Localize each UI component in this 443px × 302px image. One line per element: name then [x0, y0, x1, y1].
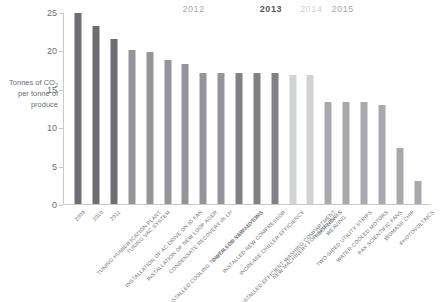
- plot-area: 0510152025: [63, 13, 431, 205]
- x-axis-label: 2011: [109, 209, 122, 222]
- bar: [182, 64, 189, 204]
- bar: [75, 13, 82, 204]
- x-axis-label: 2009: [73, 209, 87, 223]
- bar: [93, 26, 100, 204]
- y-tick-mark: [59, 167, 63, 168]
- bar: [396, 148, 403, 204]
- bar: [271, 73, 278, 204]
- x-axis-label: 2010: [91, 209, 105, 223]
- bar: [110, 39, 117, 204]
- y-tick-label: 20: [47, 46, 57, 56]
- bar: [414, 181, 421, 204]
- bar: [378, 105, 385, 204]
- y-tick-label: 15: [47, 85, 57, 95]
- y-tick-label: 5: [52, 162, 57, 172]
- x-axis-category-labels: 200920102011TUNING HUMIDIFICATION PLANTT…: [63, 207, 443, 302]
- y-tick-label: 25: [47, 8, 57, 18]
- bar: [307, 75, 314, 204]
- bar: [343, 102, 350, 204]
- bar: [128, 50, 135, 204]
- y-tick-label: 0: [52, 200, 57, 210]
- bar: [218, 73, 225, 204]
- x-axis-line: [63, 204, 431, 205]
- bar-chart: 2012201320142015 Tonnes of CO2 per tonne…: [0, 0, 443, 302]
- bar: [200, 73, 207, 204]
- bar-series: [63, 13, 431, 204]
- y-tick-mark: [59, 90, 63, 91]
- bar: [253, 73, 260, 204]
- x-axis-label: TUNING HUMIDIFICATION PLANT: [95, 209, 163, 277]
- y-tick-mark: [59, 128, 63, 129]
- y-tick-mark: [59, 51, 63, 52]
- y-tick-mark: [59, 205, 63, 206]
- bar: [289, 75, 296, 204]
- bar: [325, 102, 332, 204]
- y-tick-mark: [59, 13, 63, 14]
- bar: [361, 102, 368, 204]
- y-axis-title-line3: produce: [31, 100, 58, 109]
- bar: [235, 73, 242, 204]
- y-tick-label: 10: [47, 123, 57, 133]
- bar: [146, 52, 153, 204]
- bar: [164, 60, 171, 204]
